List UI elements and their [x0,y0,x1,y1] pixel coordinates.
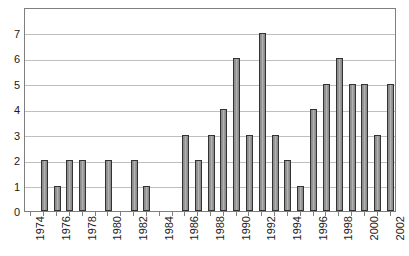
x-tick-label: 1984 [164,216,175,240]
bar-2000 [361,84,368,212]
bar-1975 [41,160,48,211]
bar-1992 [259,33,266,212]
y-tick-label: 3 [14,130,20,141]
x-tick-label: 1998 [343,216,354,240]
x-tick-label: 1978 [87,216,98,240]
bar-1989 [220,109,227,211]
x-tick-label: 1996 [318,216,329,240]
y-axis: 01234567 [0,0,24,214]
x-tick-label: 1994 [292,216,303,240]
bar-2002 [387,84,394,212]
bar-2001 [374,135,381,212]
x-tick-label: 1992 [266,216,277,240]
bar-1993 [272,135,279,212]
x-tick-label: 1988 [215,216,226,240]
x-tick-label: 1980 [112,216,123,240]
bar-1995 [297,186,304,212]
y-tick-label: 1 [14,181,20,192]
x-tick-label: 2002 [395,216,406,240]
x-tick-label: 1990 [241,216,252,240]
bar-1977 [66,160,73,211]
bar-1991 [246,135,253,212]
bar-chart: 01234567 1974197619781980198219841986198… [0,0,409,256]
x-tick-label: 1982 [138,216,149,240]
bar-1983 [143,186,150,212]
bar-1986 [182,135,189,212]
x-tick-label: 2000 [369,216,380,240]
y-tick-label: 7 [14,28,20,39]
y-tick-label: 4 [14,105,20,116]
y-tick-label: 5 [14,79,20,90]
y-tick-label: 6 [14,54,20,65]
x-tick-label: 1986 [189,216,200,240]
bar-1976 [54,186,61,212]
y-tick-label: 2 [14,156,20,167]
bar-1994 [284,160,291,211]
bar-1982 [131,160,138,211]
bar-1988 [208,135,215,212]
bar-1998 [336,58,343,211]
bar-1990 [233,58,240,211]
bar-1987 [195,160,202,211]
x-axis: 1974197619781980198219841986198819901992… [24,216,396,256]
bar-1996 [310,109,317,211]
x-tick-label: 1976 [61,216,72,240]
bar-1997 [323,84,330,212]
bar-1999 [349,84,356,212]
x-tick-label: 1974 [35,216,46,240]
bar-1980 [105,160,112,211]
bars-series [25,9,395,211]
bar-1978 [79,160,86,211]
plot-area [24,8,396,212]
y-tick-label: 0 [14,207,20,218]
